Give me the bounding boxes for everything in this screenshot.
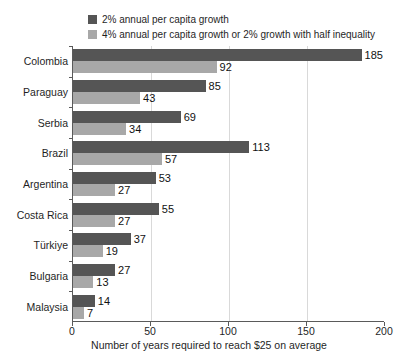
legend-label-series-1: 2% annual per capita growth [102, 14, 229, 25]
bar-costa-rica-series-1 [73, 203, 159, 215]
bar-group: 6934 [73, 111, 384, 135]
bar-row: 57 [73, 153, 384, 165]
bar-group: 5327 [73, 172, 384, 196]
bar-row: 27 [73, 264, 384, 276]
bar-row: 13 [73, 276, 384, 288]
bar-row: 37 [73, 233, 384, 245]
category-label-costa-rica: Costa Rica [0, 209, 68, 221]
chart-legend: 2% annual per capita growth 4% annual pe… [88, 12, 375, 42]
y-axis-tick [69, 107, 73, 108]
bar-group: 5527 [73, 203, 384, 227]
bar-bulgaria-series-1 [73, 264, 115, 276]
bar-colombia-series-2 [73, 61, 217, 73]
bar-malaysia-series-1 [73, 295, 95, 307]
bar-value-label: 37 [131, 233, 146, 245]
bar-groups: 1859285436934113575327552737192713147 [73, 46, 384, 321]
bar-costa-rica-series-2 [73, 215, 115, 227]
bar-row: 185 [73, 49, 384, 61]
bar-paraguay-series-1 [73, 80, 206, 92]
bar-serbia-series-2 [73, 123, 126, 135]
bar-row: 113 [73, 141, 384, 153]
y-axis-tick [69, 230, 73, 231]
bar-row: 85 [73, 80, 384, 92]
bar-paraguay-series-2 [73, 92, 140, 104]
category-label-brazil: Brazil [0, 147, 68, 159]
bar-row: 34 [73, 123, 384, 135]
bar-malaysia-series-2 [73, 307, 84, 319]
bar-bulgaria-series-2 [73, 276, 93, 288]
y-axis-tick [69, 46, 73, 47]
y-axis-tick [69, 169, 73, 170]
bar-row: 69 [73, 111, 384, 123]
bar-row: 53 [73, 172, 384, 184]
bar-value-label: 34 [126, 123, 141, 135]
bar-brazil-series-2 [73, 153, 162, 165]
x-axis-tick-labels: 050100150200 [72, 325, 384, 339]
category-label-paraguay: Paraguay [0, 86, 68, 98]
bar-value-label: 53 [156, 172, 171, 184]
bar-value-label: 14 [95, 295, 110, 307]
bar-group: 147 [73, 295, 384, 319]
legend-item-series-1: 2% annual per capita growth [88, 12, 375, 27]
x-axis-tick-label-100: 100 [219, 325, 237, 337]
bar-value-label: 27 [115, 264, 130, 276]
y-axis-tick [69, 261, 73, 262]
bar-brazil-series-1 [73, 141, 249, 153]
x-axis-tick-label-200: 200 [375, 325, 393, 337]
bar-value-label: 55 [159, 203, 174, 215]
bar-row: 7 [73, 307, 384, 319]
bar-value-label: 69 [181, 111, 196, 123]
bar-group: 18592 [73, 49, 384, 73]
legend-swatch-icon-series-1 [88, 15, 97, 24]
bar-value-label: 85 [206, 80, 221, 92]
bar-value-label: 185 [362, 49, 383, 61]
y-axis-tick [69, 138, 73, 139]
y-axis-tick [69, 77, 73, 78]
bar-value-label: 92 [217, 61, 232, 73]
category-label-serbia: Serbia [0, 117, 68, 129]
category-label-colombia: Colombia [0, 55, 68, 67]
bar-value-label: 27 [115, 184, 130, 196]
bar-türkiye-series-2 [73, 245, 103, 257]
category-label-argentina: Argentina [0, 178, 68, 190]
bar-value-label: 113 [249, 141, 270, 153]
bar-chart: 2% annual per capita growth 4% annual pe… [0, 0, 418, 359]
x-axis-tick-label-50: 50 [144, 325, 156, 337]
bar-value-label: 43 [140, 92, 155, 104]
bar-value-label: 13 [93, 276, 108, 288]
x-axis-tick-label-150: 150 [297, 325, 315, 337]
legend-item-series-2: 4% annual per capita growth or 2% growth… [88, 27, 375, 42]
bar-row: 27 [73, 184, 384, 196]
bar-argentina-series-2 [73, 184, 115, 196]
category-label-türkiye: Türkiye [0, 239, 68, 251]
category-axis-labels: ColombiaParaguaySerbiaBrazilArgentinaCos… [0, 46, 68, 322]
bar-value-label: 7 [84, 307, 93, 319]
bar-row: 43 [73, 92, 384, 104]
bar-serbia-series-1 [73, 111, 181, 123]
y-axis-tick [69, 199, 73, 200]
bar-group: 2713 [73, 264, 384, 288]
bar-colombia-series-1 [73, 49, 362, 61]
bar-group: 8543 [73, 80, 384, 104]
bar-value-label: 19 [103, 245, 118, 257]
bar-argentina-series-1 [73, 172, 156, 184]
bar-row: 92 [73, 61, 384, 73]
plot-area: 1859285436934113575327552737192713147 [72, 46, 384, 322]
category-label-bulgaria: Bulgaria [0, 270, 68, 282]
category-label-malaysia: Malaysia [0, 301, 68, 313]
bar-row: 55 [73, 203, 384, 215]
bar-value-label: 27 [115, 215, 130, 227]
bar-türkiye-series-1 [73, 233, 131, 245]
bar-row: 27 [73, 215, 384, 227]
x-axis-tick-label-0: 0 [69, 325, 75, 337]
bar-group: 11357 [73, 141, 384, 165]
y-axis-tick [69, 291, 73, 292]
bar-group: 3719 [73, 233, 384, 257]
bar-value-label: 57 [162, 153, 177, 165]
bar-row: 14 [73, 295, 384, 307]
legend-swatch-icon-series-2 [88, 30, 97, 39]
bar-row: 19 [73, 245, 384, 257]
x-axis-title: Number of years required to reach $25 on… [0, 339, 418, 351]
legend-label-series-2: 4% annual per capita growth or 2% growth… [102, 29, 375, 40]
